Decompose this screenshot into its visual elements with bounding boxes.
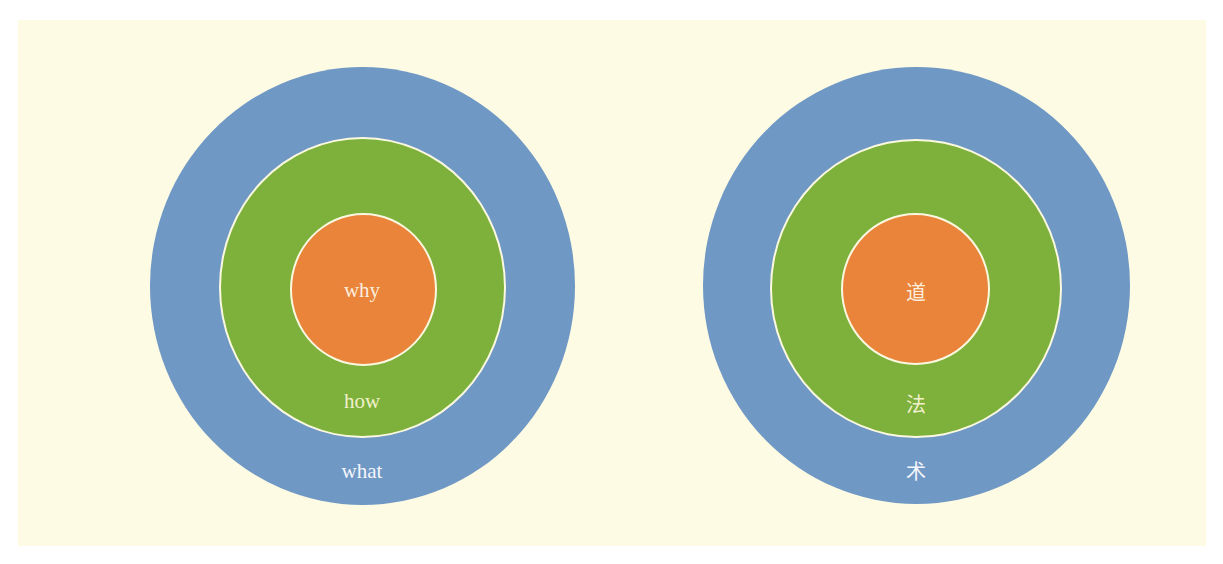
label-what: what bbox=[342, 461, 383, 482]
label-fa: 法 bbox=[906, 395, 926, 415]
label-dao: 道 bbox=[906, 283, 926, 303]
label-why: why bbox=[344, 280, 380, 301]
label-shu: 术 bbox=[906, 462, 926, 482]
label-how: how bbox=[344, 391, 380, 412]
